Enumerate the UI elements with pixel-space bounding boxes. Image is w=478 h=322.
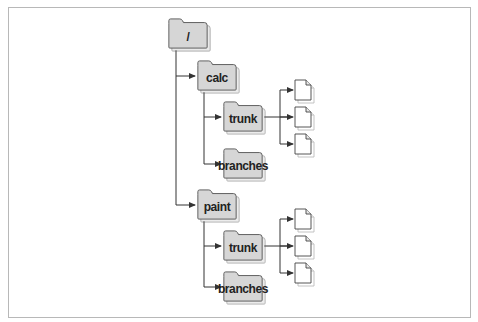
file-icon[interactable] xyxy=(295,107,314,130)
file-icon[interactable] xyxy=(295,209,314,232)
folder-label: trunk xyxy=(229,112,258,126)
folder-label: paint xyxy=(204,200,231,214)
directory-tree-diagram: / calc trunk branches paint xyxy=(0,0,478,322)
folder-root[interactable]: / xyxy=(169,19,210,51)
file-icon[interactable] xyxy=(295,134,314,157)
file-icon[interactable] xyxy=(295,236,314,259)
file-icon[interactable] xyxy=(295,80,314,103)
paint-trunk-files xyxy=(295,209,314,286)
folder-label: trunk xyxy=(229,241,258,255)
folder-calc-branches[interactable]: branches xyxy=(218,149,269,181)
folder-calc[interactable]: calc xyxy=(198,61,239,93)
folder-paint[interactable]: paint xyxy=(198,190,239,222)
folder-calc-trunk[interactable]: trunk xyxy=(224,102,265,134)
calc-trunk-files xyxy=(295,80,314,157)
folder-label: branches xyxy=(218,282,269,296)
file-icon[interactable] xyxy=(295,263,314,286)
folder-label: branches xyxy=(218,159,269,173)
folder-paint-trunk[interactable]: trunk xyxy=(224,231,265,263)
folder-label: calc xyxy=(206,71,228,85)
folder-paint-branches[interactable]: branches xyxy=(218,272,269,304)
